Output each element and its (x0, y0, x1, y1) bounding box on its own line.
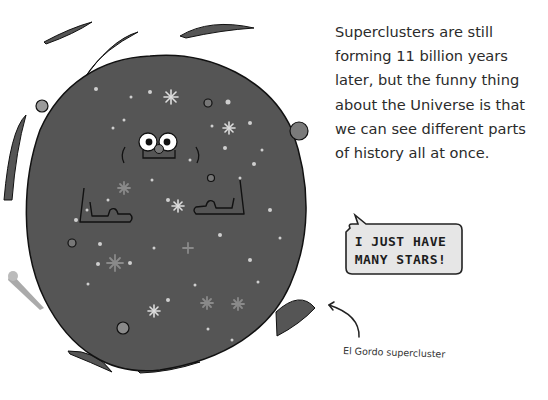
sparkle-star (107, 255, 123, 271)
star (211, 125, 214, 128)
star (268, 208, 272, 212)
star (151, 179, 154, 182)
star (231, 339, 234, 342)
paragraph-line: of history all at once. (335, 141, 545, 165)
star (194, 284, 197, 287)
star (107, 199, 110, 202)
star (223, 146, 227, 150)
star (279, 237, 282, 240)
swoosh-arc (44, 22, 92, 44)
paragraph-line: about the Universe is that (335, 93, 545, 117)
sparkle-star (223, 122, 235, 134)
sparkle-star (232, 298, 244, 310)
star (86, 209, 89, 212)
star (153, 247, 156, 250)
planet-small (208, 175, 215, 182)
sparkle-star (148, 305, 160, 317)
star (94, 87, 98, 91)
star (239, 177, 242, 180)
planet-small (68, 239, 76, 247)
star (248, 121, 252, 125)
body-paragraph: Superclusters are still forming 11 billi… (335, 20, 545, 165)
star (128, 261, 132, 265)
star (87, 283, 90, 286)
arrow-icon (329, 302, 359, 337)
star (123, 119, 126, 122)
star (130, 96, 133, 99)
star (74, 218, 78, 222)
star (98, 242, 102, 246)
sparkle-star (172, 200, 184, 212)
star (166, 198, 170, 202)
sparkle-star (118, 182, 130, 194)
swoosh-arc (4, 115, 26, 200)
paragraph-line: Superclusters are still (335, 20, 545, 44)
star (218, 233, 222, 237)
paragraph-line: forming 11 billion years (335, 44, 545, 68)
left-pupil (146, 139, 153, 146)
planet-small (117, 322, 129, 334)
speech-line: I JUST HAVE (348, 233, 453, 251)
sparkle-star (164, 90, 178, 104)
star (252, 162, 256, 166)
swoosh-arc (180, 24, 254, 38)
right-pupil (164, 139, 171, 146)
sparkle-star (201, 297, 213, 309)
star (112, 127, 115, 130)
star (226, 100, 231, 105)
star (148, 90, 152, 94)
paragraph-line: we can see different parts (335, 117, 545, 141)
star (257, 281, 260, 284)
speech-line: MANY STARS! (348, 251, 453, 269)
star (166, 298, 170, 302)
star (96, 262, 100, 266)
paragraph-line: later, but the funny thing (335, 68, 545, 92)
star (248, 258, 252, 262)
planet (36, 100, 48, 112)
speech-bubble-text: I JUST HAVE MANY STARS! (348, 233, 453, 269)
swoosh-arc (276, 300, 315, 336)
star (261, 149, 264, 152)
nose (155, 145, 164, 154)
planet-small (204, 99, 212, 107)
planet (290, 122, 308, 140)
star (189, 159, 192, 162)
star (207, 328, 210, 331)
